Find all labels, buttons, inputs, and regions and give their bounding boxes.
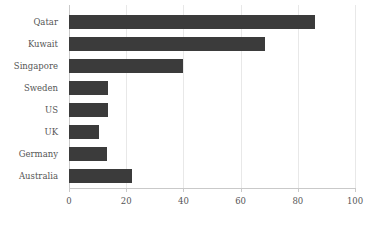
- x-tick-mark-100: [355, 188, 356, 192]
- x-axis-line: [69, 188, 356, 189]
- x-tick-mark-80: [298, 188, 299, 192]
- bar-row: [69, 55, 355, 77]
- category-label-uk: UK: [0, 121, 64, 143]
- x-tick-label-0: 0: [49, 196, 89, 206]
- bar-germany: [69, 147, 107, 161]
- bar-row: [69, 11, 355, 33]
- bar-row: [69, 33, 355, 55]
- gridline-100: [355, 5, 356, 189]
- bar-qatar: [69, 15, 315, 29]
- bar-uk: [69, 125, 99, 139]
- x-tick-mark-60: [241, 188, 242, 192]
- bar-australia: [69, 169, 132, 183]
- x-tick-label-80: 80: [278, 196, 318, 206]
- category-label-qatar: Qatar: [0, 11, 64, 33]
- category-label-us: US: [0, 99, 64, 121]
- bar-chart: QatarKuwaitSingaporeSwedenUSUKGermanyAus…: [0, 0, 373, 225]
- x-tick-label-20: 20: [106, 196, 146, 206]
- x-tick-label-40: 40: [163, 196, 203, 206]
- bar-singapore: [69, 59, 183, 73]
- category-label-sweden: Sweden: [0, 77, 64, 99]
- bar-sweden: [69, 81, 108, 95]
- x-tick-label-100: 100: [335, 196, 373, 206]
- bar-us: [69, 103, 108, 117]
- category-label-australia: Australia: [0, 165, 64, 187]
- bar-row: [69, 121, 355, 143]
- x-tick-mark-20: [126, 188, 127, 192]
- category-label-germany: Germany: [0, 143, 64, 165]
- category-label-singapore: Singapore: [0, 55, 64, 77]
- bar-row: [69, 143, 355, 165]
- bar-row: [69, 99, 355, 121]
- bar-row: [69, 77, 355, 99]
- bar-kuwait: [69, 37, 265, 51]
- x-tick-mark-0: [69, 188, 70, 192]
- category-label-kuwait: Kuwait: [0, 33, 64, 55]
- bar-row: [69, 165, 355, 187]
- x-tick-label-60: 60: [221, 196, 261, 206]
- x-tick-mark-40: [183, 188, 184, 192]
